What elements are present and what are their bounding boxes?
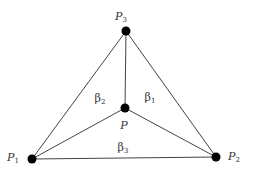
vertex-p1 [28, 155, 37, 164]
edge-p1-p2 [32, 157, 216, 159]
label-p3: P3 [114, 10, 127, 24]
triangle-barycentric-diagram: P3 P1 P2 P β1 β2 β3 [0, 0, 253, 169]
label-p1: P1 [6, 151, 19, 165]
edge-p3-p1 [32, 31, 126, 159]
vertex-p3 [122, 27, 131, 36]
edge-p-p1 [32, 108, 125, 159]
vertex-p [121, 104, 130, 113]
edge-p2-p3 [126, 31, 216, 157]
edge-p-p2 [125, 108, 216, 157]
label-beta-3: β3 [118, 141, 129, 155]
edge-p-p3 [125, 31, 126, 108]
label-beta-2: β2 [95, 92, 106, 106]
vertex-p2 [212, 153, 221, 162]
label-p2: P2 [227, 150, 240, 164]
label-beta-1: β1 [145, 91, 156, 105]
label-p: P [119, 119, 128, 132]
